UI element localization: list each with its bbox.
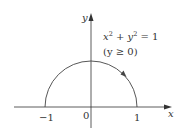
equation-annotation: x2 + y2 = 1 (y ≥ 0) xyxy=(103,30,158,57)
diagram-canvas: y x −1 0 1 x2 + y2 = 1 (y ≥ 0) xyxy=(0,0,185,140)
tick-label-neg-one: −1 xyxy=(39,112,54,123)
x-axis xyxy=(14,105,172,110)
direction-arrow-icon xyxy=(121,71,127,78)
tick-label-zero: 0 xyxy=(83,110,89,121)
x-axis-label: x xyxy=(168,108,174,119)
semicircle-diagram: y x −1 0 1 x2 + y2 = 1 (y ≥ 0) xyxy=(0,0,185,140)
condition-label: (y ≥ 0) xyxy=(103,46,138,57)
eq-plus: + xyxy=(113,31,128,42)
y-axis-arrow-icon xyxy=(89,13,94,21)
y-axis-label: y xyxy=(81,12,88,23)
tick-label-one: 1 xyxy=(134,112,140,123)
eq-rhs: = 1 xyxy=(137,31,158,42)
svg-text:x2 + y2 = 1: x2 + y2 = 1 xyxy=(103,30,158,42)
